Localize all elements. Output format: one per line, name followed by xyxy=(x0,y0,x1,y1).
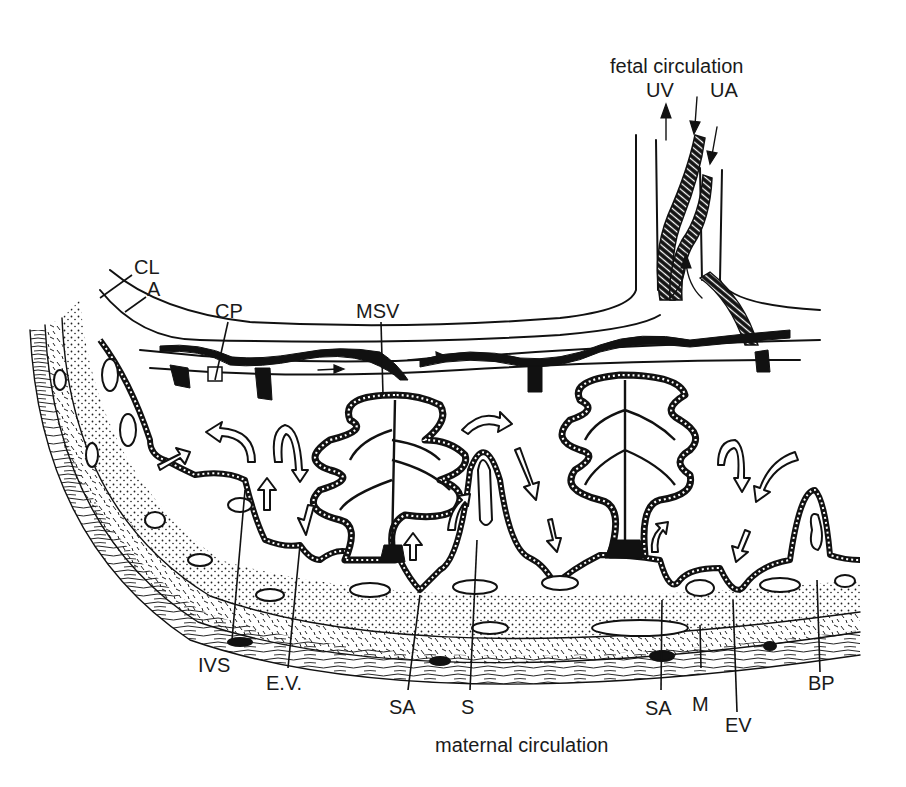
label-cp: CP xyxy=(215,300,243,322)
villous-tree-left xyxy=(313,395,465,562)
caption-fetal-circulation: fetal circulation xyxy=(610,55,743,77)
label-ua: UA xyxy=(710,79,738,101)
label-sa-right: SA xyxy=(645,697,672,719)
flow-arrow-icon xyxy=(274,425,308,482)
placenta-circulation-diagram: fetal circulation maternal circulation U… xyxy=(0,0,906,787)
label-bp: BP xyxy=(808,672,835,694)
flow-arrow-icon xyxy=(515,448,539,500)
uv-arrow-up-icon xyxy=(661,104,671,140)
flow-arrow-icon xyxy=(462,412,512,434)
label-ivs: IVS xyxy=(198,654,230,676)
label-ev: EV xyxy=(725,714,752,736)
ua-arrow-down-icon xyxy=(707,127,717,164)
label-msv: MSV xyxy=(356,300,400,322)
ua-arrow-down-icon xyxy=(690,97,700,134)
label-ev-dotted: E.V. xyxy=(266,672,302,694)
flow-arrow-icon xyxy=(754,452,798,502)
label-cl: CL xyxy=(134,256,160,278)
flow-arrow-icon xyxy=(732,530,750,562)
flow-arrow-icon xyxy=(718,440,750,492)
flow-arrow-icon xyxy=(652,522,668,552)
caption-maternal-circulation: maternal circulation xyxy=(435,734,608,756)
flow-arrow-icon xyxy=(258,478,276,510)
flow-arrow-icon xyxy=(298,505,314,535)
flow-arrow-icon xyxy=(404,533,422,560)
label-uv: UV xyxy=(646,79,674,101)
label-m: M xyxy=(692,693,709,715)
flow-arrow-icon xyxy=(547,519,561,552)
label-a: A xyxy=(147,278,161,300)
flow-arrow-icon xyxy=(206,422,255,462)
label-s: S xyxy=(461,696,474,718)
plate-flow-arrow-icon xyxy=(318,365,344,373)
villous-tree-right xyxy=(562,375,696,558)
chorionic-plate xyxy=(100,290,820,400)
label-sa-left: SA xyxy=(389,696,416,718)
